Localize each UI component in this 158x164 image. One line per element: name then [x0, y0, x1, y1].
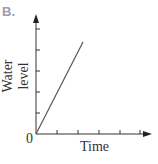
y-axis [33, 14, 40, 134]
x-axis [36, 130, 152, 137]
x-axis-label: Time [80, 139, 109, 155]
origin-label: 0 [26, 131, 33, 147]
data-line [36, 42, 83, 134]
y-axis-label: Water level [0, 46, 32, 106]
